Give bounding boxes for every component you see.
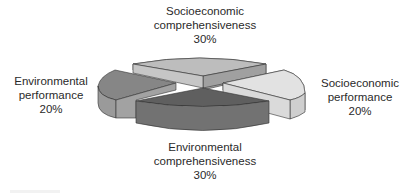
label-environmental-comprehensiveness: Environmental comprehensiveness 30% bbox=[150, 140, 260, 182]
label-socioeconomic-comprehensiveness: Socioeconomic comprehensiveness 30% bbox=[150, 4, 260, 46]
label-line: performance bbox=[310, 90, 407, 104]
label-line: comprehensiveness bbox=[150, 18, 260, 32]
label-socioeconomic-performance: Socioeconomic performance 20% bbox=[310, 76, 407, 118]
label-line: Environmental bbox=[150, 140, 260, 154]
label-line: Socioeconomic bbox=[310, 76, 407, 90]
label-percent: 30% bbox=[150, 32, 260, 46]
label-line: comprehensiveness bbox=[150, 154, 260, 168]
label-percent: 30% bbox=[150, 168, 260, 182]
label-environmental-performance: Environmental performance 20% bbox=[6, 74, 96, 116]
label-line: performance bbox=[6, 88, 96, 102]
label-percent: 20% bbox=[310, 104, 407, 118]
label-percent: 20% bbox=[6, 102, 96, 116]
label-line: Socioeconomic bbox=[150, 4, 260, 18]
cropped-caption-artifact bbox=[10, 190, 60, 193]
label-line: Environmental bbox=[6, 74, 96, 88]
